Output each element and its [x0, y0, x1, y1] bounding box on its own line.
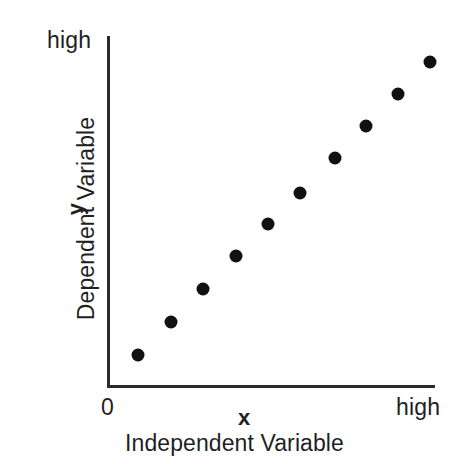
data-point [132, 349, 145, 362]
data-point [294, 187, 307, 200]
data-point [262, 218, 275, 231]
data-point [424, 56, 437, 69]
y-axis-title: Dependent Variable [75, 59, 98, 379]
x-axis-zero-tick-label: 0 [101, 396, 114, 419]
x-variable-symbol: x [238, 407, 250, 429]
x-axis-title: Independent Variable [0, 432, 469, 455]
data-point [329, 152, 342, 165]
data-point [230, 250, 243, 263]
scatter-plot-figure: high 0 high x y Independent Variable Dep… [0, 0, 469, 464]
data-point [197, 283, 210, 296]
data-point [360, 120, 373, 133]
x-axis-high-tick-label: high [396, 396, 440, 419]
data-point [392, 88, 405, 101]
y-axis-high-tick-label: high [47, 29, 91, 52]
data-point [165, 316, 178, 329]
